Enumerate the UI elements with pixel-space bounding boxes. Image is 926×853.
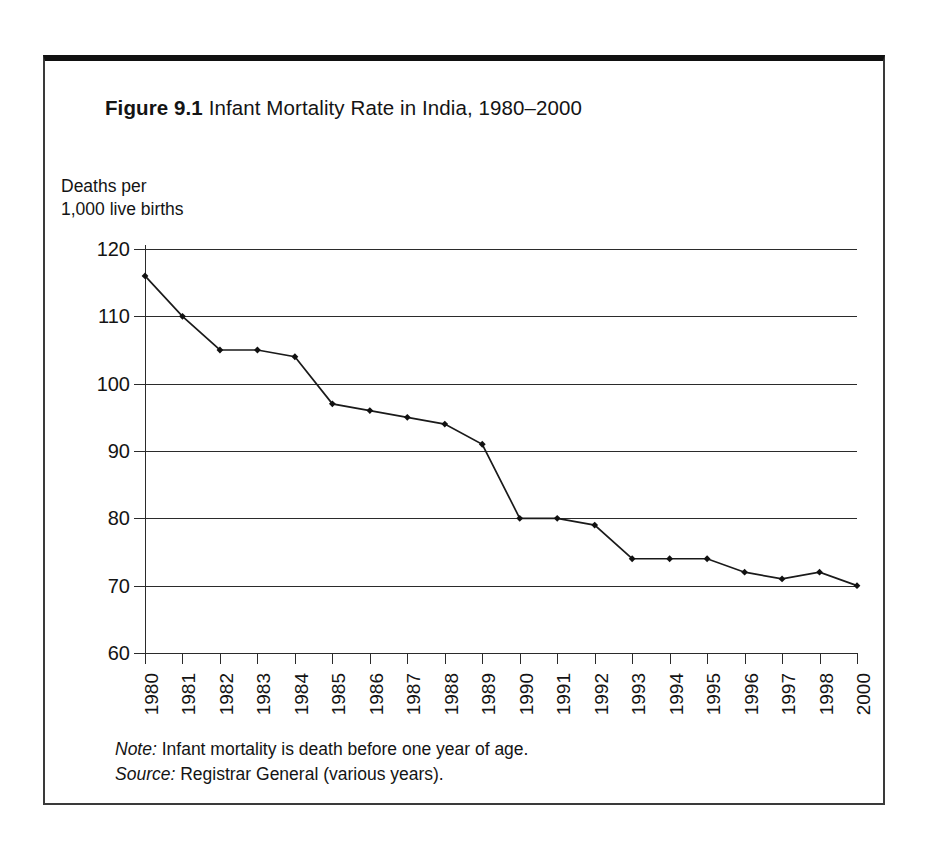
x-axis-tick bbox=[220, 653, 221, 664]
x-axis-tick bbox=[520, 653, 521, 664]
x-axis-tick-label: 1981 bbox=[178, 673, 200, 715]
data-point-marker bbox=[779, 576, 786, 583]
data-point-marker bbox=[816, 569, 823, 576]
x-axis-tick-label: 1980 bbox=[141, 673, 163, 715]
data-point-marker bbox=[366, 407, 373, 414]
y-axis-tick bbox=[134, 518, 145, 519]
x-axis-tick bbox=[257, 653, 258, 664]
x-axis-tick-label: 1988 bbox=[441, 673, 463, 715]
x-axis-tick-label: 1989 bbox=[478, 673, 500, 715]
x-axis-tick-label: 1993 bbox=[628, 673, 650, 715]
note-text: Infant mortality is death before one yea… bbox=[157, 739, 529, 759]
data-point-marker bbox=[741, 569, 748, 576]
y-axis-tick bbox=[134, 451, 145, 452]
data-point-marker bbox=[404, 414, 411, 421]
plot-area: 12011010090807060 1980198119821983198419… bbox=[145, 249, 857, 653]
x-axis-tick-label: 1997 bbox=[778, 673, 800, 715]
x-axis-tick-label: 1994 bbox=[666, 673, 688, 715]
y-axis-tick bbox=[134, 249, 145, 250]
y-axis-tick bbox=[134, 384, 145, 385]
x-axis-tick bbox=[445, 653, 446, 664]
figure-title-text: Infant Mortality Rate in India, 1980–200… bbox=[209, 96, 582, 119]
y-axis-tick-label: 110 bbox=[98, 305, 130, 328]
y-axis-tick bbox=[134, 316, 145, 317]
data-point-marker bbox=[441, 421, 448, 428]
data-point-marker bbox=[254, 347, 261, 354]
figure-title: Figure 9.1 Infant Mortality Rate in Indi… bbox=[105, 96, 582, 120]
x-axis-tick bbox=[745, 653, 746, 664]
x-axis-tick bbox=[182, 653, 183, 664]
x-axis-tick-label: 1996 bbox=[741, 673, 763, 715]
x-axis-tick bbox=[295, 653, 296, 664]
note-label: Note: bbox=[115, 739, 157, 759]
data-point-marker bbox=[516, 515, 523, 522]
x-axis-tick-label: 1984 bbox=[291, 673, 313, 715]
y-axis-tick-label: 80 bbox=[108, 507, 130, 530]
x-axis-tick bbox=[370, 653, 371, 664]
x-axis-tick-label: 1987 bbox=[403, 673, 425, 715]
x-axis-tick-label: 1992 bbox=[591, 673, 613, 715]
y-axis-tick-label: 90 bbox=[108, 440, 130, 463]
x-axis-tick bbox=[707, 653, 708, 664]
y-axis-tick-label: 60 bbox=[108, 642, 130, 665]
source-text: Registrar General (various years). bbox=[175, 764, 443, 784]
data-point-marker bbox=[854, 582, 861, 589]
x-axis-tick-label: 1990 bbox=[516, 673, 538, 715]
x-axis-tick-label: 1982 bbox=[216, 673, 238, 715]
x-axis-tick bbox=[857, 653, 858, 664]
x-axis-tick bbox=[332, 653, 333, 664]
y-axis-tick-label: 120 bbox=[97, 238, 130, 261]
x-axis-tick bbox=[557, 653, 558, 664]
figure-note-line: Note: Infant mortality is death before o… bbox=[115, 737, 528, 762]
x-axis-tick bbox=[482, 653, 483, 664]
x-axis-tick-label: 1998 bbox=[816, 673, 838, 715]
y-axis-tick bbox=[134, 586, 145, 587]
figure-notes: Note: Infant mortality is death before o… bbox=[115, 737, 528, 787]
data-point-marker bbox=[479, 441, 486, 448]
series-line-chart bbox=[145, 249, 857, 653]
x-axis-tick bbox=[407, 653, 408, 664]
x-axis-tick bbox=[145, 653, 146, 664]
x-axis-tick-label: 1991 bbox=[553, 673, 575, 715]
x-axis-tick-label: 1995 bbox=[703, 673, 725, 715]
source-label: Source: bbox=[115, 764, 175, 784]
x-axis-tick-label: 2000 bbox=[853, 673, 875, 715]
gridline bbox=[145, 653, 857, 654]
y-axis-title: Deaths per 1,000 live births bbox=[61, 175, 184, 221]
x-axis-tick-label: 1986 bbox=[366, 673, 388, 715]
x-axis-tick bbox=[820, 653, 821, 664]
data-point-marker bbox=[554, 515, 561, 522]
figure-number: Figure 9.1 bbox=[105, 96, 203, 119]
y-axis-tick-label: 100 bbox=[97, 372, 130, 395]
x-axis-tick bbox=[595, 653, 596, 664]
x-axis-tick-label: 1985 bbox=[328, 673, 350, 715]
x-axis-tick bbox=[670, 653, 671, 664]
series-line bbox=[145, 276, 857, 586]
figure-source-line: Source: Registrar General (various years… bbox=[115, 762, 528, 787]
y-axis-tick bbox=[134, 653, 145, 654]
figure-frame: Figure 9.1 Infant Mortality Rate in Indi… bbox=[43, 55, 885, 805]
x-axis-tick bbox=[782, 653, 783, 664]
data-point-marker bbox=[704, 555, 711, 562]
x-axis-tick bbox=[632, 653, 633, 664]
x-axis-tick-label: 1983 bbox=[253, 673, 275, 715]
data-point-marker bbox=[666, 555, 673, 562]
y-axis-tick-label: 70 bbox=[108, 574, 130, 597]
